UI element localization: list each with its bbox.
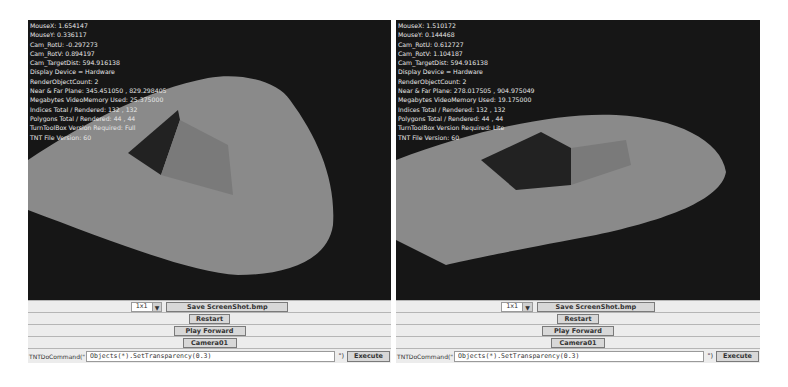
restart-row: Restart: [28, 312, 391, 324]
stat-line: MouseY: 0.144468: [398, 30, 535, 39]
screenshot-size-select[interactable]: 1x1 ▼: [131, 302, 163, 312]
stat-line: Cam_RotV: 1.104187: [398, 49, 535, 58]
screenshot-row: 1x1 ▼ Save ScreenShot.bmp: [396, 300, 760, 312]
command-suffix: "): [704, 352, 716, 360]
chevron-down-icon: ▼: [522, 303, 532, 311]
stat-line: TNT File Version: 60: [30, 133, 167, 142]
select-value: 1x1: [132, 302, 152, 311]
play-forward-button[interactable]: Play Forward: [542, 326, 614, 336]
restart-button[interactable]: Restart: [189, 314, 230, 324]
restart-button[interactable]: Restart: [557, 314, 598, 324]
viewer-controls: 1x1 ▼ Save ScreenShot.bmp Restart Play F…: [28, 300, 391, 363]
stat-line: Indices Total / Rendered: 132 , 132: [30, 105, 167, 114]
screenshot-size-select[interactable]: 1x1 ▼: [501, 302, 533, 312]
command-suffix: "): [335, 352, 347, 360]
command-input[interactable]: [86, 351, 335, 362]
stat-line: MouseY: 0.336117: [30, 30, 167, 39]
stat-line: Polygons Total / Rendered: 44 , 44: [398, 114, 535, 123]
execute-button[interactable]: Execute: [347, 351, 390, 362]
command-label: TNTDoCommand(": [396, 353, 453, 360]
stat-line: Near & Far Plane: 345.451050 , 829.29840…: [30, 86, 167, 95]
stat-line: RenderObjectCount: 2: [398, 77, 535, 86]
stat-line: MouseX: 1.510172: [398, 21, 535, 30]
save-screenshot-button[interactable]: Save ScreenShot.bmp: [166, 302, 288, 312]
stat-line: Cam_RotU: 0.612727: [398, 40, 535, 49]
command-input[interactable]: [454, 351, 704, 362]
command-row: TNTDoCommand(" ") Execute: [396, 348, 760, 363]
camera-row: Camera01: [28, 336, 391, 348]
3d-viewport[interactable]: MouseX: 1.510172 MouseY: 0.144468 Cam_Ro…: [396, 20, 760, 300]
stat-line: Megabytes VideoMemory Used: 19.175000: [398, 95, 535, 104]
camera-row: Camera01: [396, 336, 760, 348]
play-forward-button[interactable]: Play Forward: [174, 326, 246, 336]
restart-row: Restart: [396, 312, 760, 324]
screenshot-row: 1x1 ▼ Save ScreenShot.bmp: [28, 300, 391, 312]
stat-line: Polygons Total / Rendered: 44 , 44: [30, 114, 167, 123]
stat-line: Cam_TargetDist: 594.916138: [398, 58, 535, 67]
play-row: Play Forward: [396, 324, 760, 336]
chevron-down-icon: ▼: [152, 303, 162, 311]
stat-line: TurnToolBox Version Required: Full: [30, 123, 167, 132]
execute-button[interactable]: Execute: [716, 351, 759, 362]
stat-line: TurnToolBox Version Required: Lite: [398, 123, 535, 132]
camera-button[interactable]: Camera01: [551, 338, 605, 348]
stat-line: Display Device = Hardware: [398, 67, 535, 76]
stat-line: MouseX: 1.654147: [30, 21, 167, 30]
3d-viewport[interactable]: MouseX: 1.654147 MouseY: 0.336117 Cam_Ro…: [28, 20, 391, 300]
right-viewer-panel: MouseX: 1.510172 MouseY: 0.144468 Cam_Ro…: [396, 20, 760, 363]
viewer-controls: 1x1 ▼ Save ScreenShot.bmp Restart Play F…: [396, 300, 760, 363]
command-label: TNTDoCommand(": [28, 353, 85, 360]
stat-line: TNT File Version: 60: [398, 133, 535, 142]
camera-button[interactable]: Camera01: [183, 338, 237, 348]
stat-line: Indices Total / Rendered: 132 , 132: [398, 105, 535, 114]
render-stats-overlay: MouseX: 1.654147 MouseY: 0.336117 Cam_Ro…: [30, 21, 167, 142]
command-row: TNTDoCommand(" ") Execute: [28, 348, 391, 363]
stat-line: Near & Far Plane: 278.017505 , 904.97504…: [398, 86, 535, 95]
play-row: Play Forward: [28, 324, 391, 336]
stat-line: Cam_RotV: 0.894197: [30, 49, 167, 58]
left-viewer-panel: MouseX: 1.654147 MouseY: 0.336117 Cam_Ro…: [28, 20, 391, 363]
stat-line: Display Device = Hardware: [30, 67, 167, 76]
stat-line: Cam_TargetDist: 594.916138: [30, 58, 167, 67]
save-screenshot-button[interactable]: Save ScreenShot.bmp: [537, 302, 655, 312]
render-stats-overlay: MouseX: 1.510172 MouseY: 0.144468 Cam_Ro…: [398, 21, 535, 142]
select-value: 1x1: [502, 302, 522, 311]
stat-line: Cam_RotU: -0.297273: [30, 40, 167, 49]
stat-line: RenderObjectCount: 2: [30, 77, 167, 86]
stat-line: Megabytes VideoMemory Used: 25.375000: [30, 95, 167, 104]
